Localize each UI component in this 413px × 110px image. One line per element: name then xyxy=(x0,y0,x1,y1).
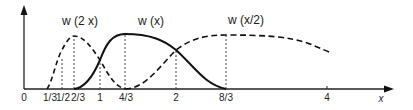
tick-labels: 0 1/3 1/2 2/3 1 4/3 2 8/3 4 x xyxy=(21,92,384,104)
x-axis-label: x xyxy=(378,93,385,104)
curve-w-2x xyxy=(47,36,125,89)
curve-w-x-half xyxy=(125,35,332,89)
tick-label-2-3: 2/3 xyxy=(71,92,85,103)
wavelet-diagram: w (2 x) w (x) w (x/2) 0 1/3 1/2 2/3 1 4/… xyxy=(0,0,413,110)
tick-label-1: 1 xyxy=(97,92,103,103)
tick-label-1-2: 1/2 xyxy=(56,92,70,103)
label-w-x-half: w (x/2) xyxy=(227,13,264,27)
x-axis-arrow-icon xyxy=(384,86,394,93)
tick-label-2: 2 xyxy=(173,92,179,103)
label-w-2x: w (2 x) xyxy=(61,14,98,28)
y-axis-arrow-icon xyxy=(21,5,28,15)
label-w-x: w (x) xyxy=(137,14,164,28)
tick-label-4: 4 xyxy=(324,92,330,103)
tick-label-0: 0 xyxy=(21,92,27,103)
tick-label-4-3: 4/3 xyxy=(119,92,133,103)
tick-label-8-3: 8/3 xyxy=(219,92,233,103)
curve-w-x xyxy=(74,34,226,89)
